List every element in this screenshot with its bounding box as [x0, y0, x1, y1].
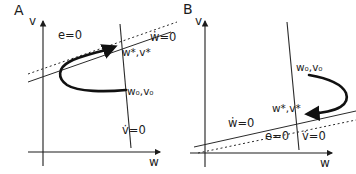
panel-a: A v e=0 ẇ=0 w*,v* w₀,v₀ v̇=0 w — [0, 0, 178, 174]
panel-a-fixed-point-label: w*,v* — [122, 46, 151, 58]
panel-b-w-nullcline-label: ẇ=0 — [228, 117, 254, 129]
panel-a-v-nullcline-label: v̇=0 — [122, 124, 146, 136]
panel-b-plot — [178, 0, 356, 174]
panel-a-w-nullcline-label: ẇ=0 — [150, 31, 176, 43]
panel-b-v-axis-label: v — [195, 15, 202, 27]
panel-a-initial-point-label: w₀,v₀ — [127, 85, 154, 97]
panel-b-v-nullcline-label: v̇=0 — [302, 130, 326, 142]
panel-b-fixed-point-label: w*,v* — [272, 102, 301, 114]
trajectory-curve — [308, 75, 347, 114]
panel-b-initial-point-label: w₀,v₀ — [296, 61, 323, 73]
panel-b-e-nullcline-label: e=0 — [265, 130, 289, 142]
panel-b: B v w₀,v₀ w*,v* ẇ=0 e=0 v̇=0 w — [178, 0, 356, 174]
panel-b-w-axis-label: w — [320, 157, 330, 169]
panel-b-letter: B — [183, 3, 193, 15]
phase-plane-figure: A v e=0 ẇ=0 w*,v* w₀,v₀ v̇=0 w — [0, 0, 356, 174]
panel-a-v-axis-label: v — [29, 15, 36, 27]
panel-a-letter: A — [14, 4, 24, 16]
trajectory-curve — [60, 47, 126, 91]
panel-a-e-nullcline-label: e=0 — [58, 29, 82, 41]
panel-a-w-axis-label: w — [149, 156, 159, 168]
